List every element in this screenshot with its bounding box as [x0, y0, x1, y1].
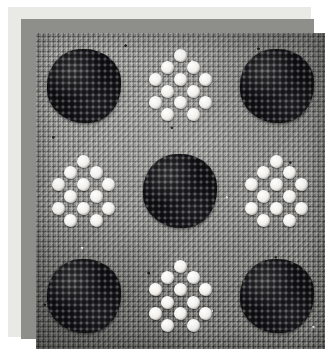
white-bead — [90, 190, 103, 203]
white-bead — [283, 190, 296, 203]
motif-cell-r2c3 — [229, 138, 325, 243]
white-bead — [199, 73, 212, 86]
keyline-border — [21, 19, 314, 339]
white-bead — [270, 155, 283, 168]
white-bead — [199, 307, 212, 320]
white-bead-diamond — [142, 48, 218, 124]
white-bead — [161, 108, 174, 121]
motif-grid — [36, 33, 325, 349]
white-bead — [161, 271, 174, 284]
white-bead — [187, 85, 200, 98]
white-bead — [149, 96, 162, 109]
dark-bead-cluster — [47, 259, 121, 333]
white-bead — [174, 96, 187, 109]
white-bead — [149, 73, 162, 86]
motif-cell-r2c1 — [36, 138, 132, 243]
motif-cell-r1c3 — [229, 33, 325, 138]
motif-cell-r3c2 — [132, 244, 228, 349]
white-bead — [187, 319, 200, 332]
white-bead — [257, 190, 270, 203]
white-bead — [187, 296, 200, 309]
white-bead — [161, 85, 174, 98]
white-bead — [77, 155, 90, 168]
white-bead-diamond — [142, 258, 218, 334]
motif-cell-r2c2 — [132, 138, 228, 243]
white-bead — [245, 178, 258, 191]
dark-bead-cluster — [240, 259, 314, 333]
white-bead — [187, 108, 200, 121]
white-bead — [161, 319, 174, 332]
white-bead — [174, 260, 187, 273]
dark-bead-cluster — [240, 49, 314, 123]
white-bead — [174, 49, 187, 62]
white-bead — [283, 214, 296, 227]
white-bead — [161, 296, 174, 309]
white-bead — [90, 166, 103, 179]
white-bead — [174, 307, 187, 320]
white-bead-diamond — [46, 153, 122, 229]
white-bead — [77, 178, 90, 191]
dark-bead-cluster — [47, 49, 121, 123]
white-bead — [102, 178, 115, 191]
white-bead — [187, 271, 200, 284]
motif-cell-r1c1 — [36, 33, 132, 138]
white-bead — [257, 166, 270, 179]
white-bead — [77, 202, 90, 215]
mat-border — [8, 7, 311, 337]
white-bead — [283, 166, 296, 179]
dark-bead-cluster — [143, 154, 217, 228]
motif-cell-r3c3 — [229, 244, 325, 349]
white-bead — [174, 283, 187, 296]
white-bead — [64, 214, 77, 227]
white-bead — [270, 178, 283, 191]
white-bead — [174, 73, 187, 86]
white-bead — [161, 61, 174, 74]
white-bead — [199, 96, 212, 109]
white-bead — [52, 202, 65, 215]
white-bead — [64, 190, 77, 203]
white-bead — [90, 214, 103, 227]
white-bead — [295, 202, 308, 215]
white-bead — [149, 283, 162, 296]
white-bead — [64, 166, 77, 179]
white-bead — [52, 178, 65, 191]
white-bead — [295, 178, 308, 191]
needlepoint-canvas — [36, 33, 325, 349]
white-bead — [199, 283, 212, 296]
white-bead — [270, 202, 283, 215]
white-bead — [149, 307, 162, 320]
white-bead — [187, 61, 200, 74]
white-bead — [102, 202, 115, 215]
white-bead — [245, 202, 258, 215]
white-bead — [257, 214, 270, 227]
motif-cell-r3c1 — [36, 244, 132, 349]
white-bead-diamond — [239, 153, 315, 229]
motif-cell-r1c2 — [132, 33, 228, 138]
